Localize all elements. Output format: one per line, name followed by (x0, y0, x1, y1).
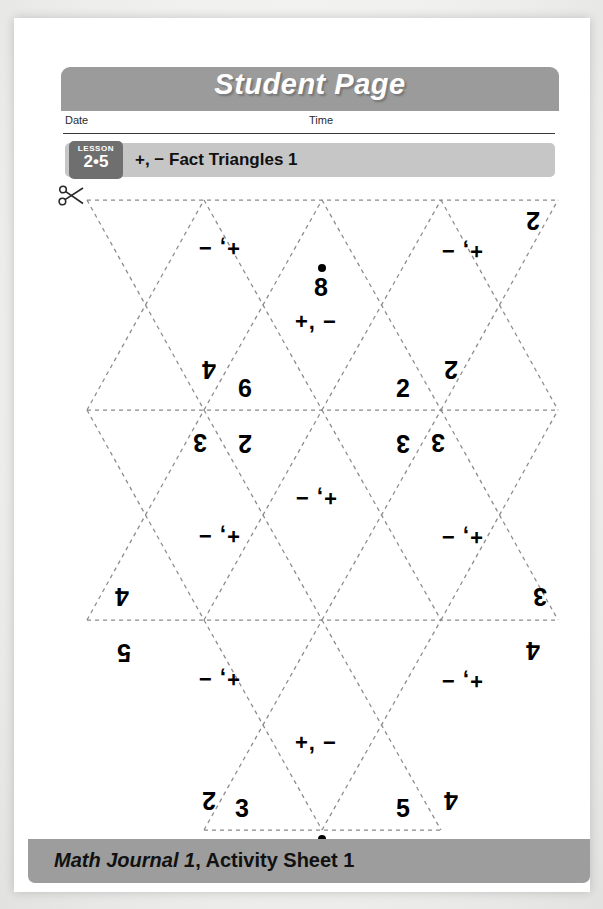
triangle-middle-left-part-b: 4 (115, 584, 129, 609)
triangle-top-right-operation: +, − (441, 240, 483, 262)
footer-journal: Math Journal 1 (54, 849, 195, 871)
triangle-middle-right-sum: 9 (363, 733, 603, 758)
triangle-top-right-part-a: 2 (526, 208, 540, 233)
triangle-bottom-center-operation: +, − (295, 732, 337, 754)
triangle-middle-right-part-b: 3 (533, 584, 547, 609)
triangle-middle-left-operation: +, − (198, 525, 240, 547)
triangle-middle-center-sum: 5 (318, 705, 603, 730)
banner-title: Student Page (61, 68, 559, 101)
triangle-middle-center-part-b: 3 (396, 431, 410, 456)
triangle-bottom-right-part-a: 4 (526, 638, 540, 663)
triangle-top-center-part-a: 6 (238, 376, 252, 401)
triangle-middle-center-operation: +, − (295, 487, 337, 509)
grid-line-e7 (322, 410, 441, 620)
triangle-middle-center-part-a: 2 (238, 431, 252, 456)
footer-text: Math Journal 1, Activity Sheet 1 (54, 849, 354, 872)
triangle-bottom-left-sum: 7 (284, 812, 603, 837)
grid-line-e9 (204, 620, 322, 830)
footer-bar: Math Journal 1, Activity Sheet 1 (28, 839, 590, 883)
triangle-top-left: 2 6 4 +, − (14, 18, 590, 68)
triangle-bottom-left-part-b: 2 (202, 788, 216, 813)
triangle-middle-right-operation: +, − (441, 526, 483, 548)
triangle-bottom-right-operation: +, − (441, 670, 483, 692)
triangle-bottom-right-part-b: 4 (444, 788, 458, 813)
triangle-top-center-operation: +, − (295, 311, 337, 333)
triangle-bottom-center-part-b: 5 (396, 796, 410, 821)
triangle-bottom-left-part-a: 5 (117, 640, 131, 665)
worksheet-sheet: Student Page Date Time LESSON 2•5 +, − F… (14, 18, 590, 892)
triangle-top-right-part-b: 2 (444, 357, 458, 382)
triangle-middle-right-apex: 3 (431, 430, 445, 455)
student-page-banner: Student Page (61, 67, 559, 111)
triangle-middle-left-apex: 3 (193, 430, 207, 455)
sum-dot (318, 264, 326, 272)
triangle-bottom-center-part-a: 3 (235, 796, 249, 821)
triangle-top-left-operation: +, − (198, 237, 240, 259)
triangle-top-center-part-b: 2 (396, 376, 410, 401)
grid-line-e6 (204, 410, 322, 620)
triangle-top-left-part-b: 4 (202, 357, 216, 382)
triangle-top-right-sum: 4 (384, 283, 603, 308)
triangle-bottom-left-operation: +, − (198, 668, 240, 690)
grid-line-e5 (87, 410, 204, 620)
footer-rest: , Activity Sheet 1 (195, 849, 354, 871)
